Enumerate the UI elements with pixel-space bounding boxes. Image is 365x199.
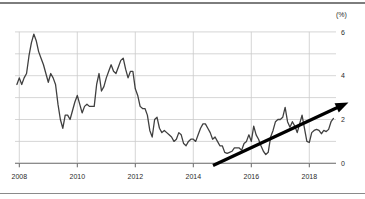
x-tick-label: 2008	[12, 173, 28, 180]
y-tick-label: 4	[341, 72, 345, 79]
x-axis-labels: 200820102012201420162018	[12, 173, 318, 180]
gridlines	[15, 32, 336, 167]
x-tick-label: 2016	[244, 173, 260, 180]
y-axis-labels: 0246	[341, 29, 345, 167]
x-tick-label: 2014	[186, 173, 202, 180]
trend-arrow-shaft	[213, 107, 338, 165]
x-tick-label: 2018	[302, 173, 318, 180]
y-tick-label: 6	[341, 29, 345, 36]
x-tick-label: 2010	[70, 173, 86, 180]
bottom-rule	[0, 193, 365, 195]
figure: 0246200820102012201420162018 (%)	[0, 0, 365, 199]
x-tick-label: 2012	[128, 173, 144, 180]
y-tick-label: 0	[341, 160, 345, 167]
y-axis-unit-label: (%)	[336, 11, 347, 19]
trend-arrow	[213, 102, 348, 165]
data-line	[17, 34, 334, 154]
y-tick-label: 2	[341, 116, 345, 123]
trend-arrow-head	[335, 102, 349, 112]
line-chart: 0246200820102012201420162018	[0, 0, 365, 199]
